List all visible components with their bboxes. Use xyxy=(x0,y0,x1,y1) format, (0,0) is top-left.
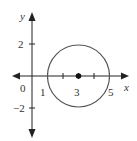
x-axis-right-arrow-icon xyxy=(121,73,129,80)
x-tick-label-0: 0 xyxy=(20,82,26,94)
x-tick-label-3: 3 xyxy=(74,86,80,98)
center-point xyxy=(76,73,82,79)
coordinate-plane: y x 2 −2 0 1 3 5 xyxy=(0,0,137,141)
y-axis-up-arrow-icon xyxy=(29,12,36,21)
x-axis-label: x xyxy=(123,81,129,93)
y-axis-down-arrow-icon xyxy=(29,129,36,138)
y-axis-label: y xyxy=(19,10,25,22)
x-axis xyxy=(12,73,129,80)
y-tick-label-2: 2 xyxy=(18,38,24,50)
y-axis xyxy=(29,12,36,138)
x-tick-label-5: 5 xyxy=(108,86,114,98)
y-tick-label-neg2: −2 xyxy=(13,102,25,114)
x-axis-left-arrow-icon xyxy=(12,73,20,80)
x-tick-label-1: 1 xyxy=(40,86,46,98)
